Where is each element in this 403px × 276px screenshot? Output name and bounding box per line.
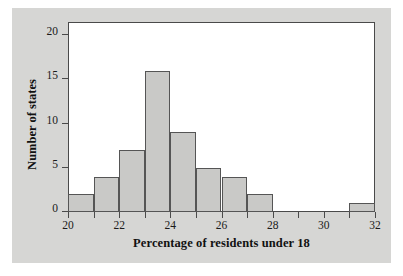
x-tick-label: 28 [261,220,285,232]
x-tick-label: 22 [107,220,131,232]
x-tick-mark [298,212,299,218]
y-tick-label: 20 [47,26,59,38]
histogram-bar [349,203,375,212]
x-tick-label: 30 [312,220,336,232]
y-tick-label: 10 [47,115,59,127]
x-tick-mark [324,212,325,218]
x-tick-mark [273,212,274,218]
x-tick-mark [222,212,223,218]
y-tick-label: 0 [52,203,58,215]
plot-area [68,22,375,212]
x-tick-label: 20 [56,220,80,232]
histogram-bar [247,194,273,212]
y-axis-title: Number of states [25,30,40,220]
y-tick-mark [62,123,68,124]
x-axis-title: Percentage of residents under 18 [68,236,375,251]
x-tick-label: 26 [210,220,234,232]
x-tick-mark [247,212,248,218]
histogram-bar [94,177,120,212]
histogram-figure: 05101520 20222426283032 Percentage of re… [0,0,403,276]
y-tick-mark [62,167,68,168]
x-tick-mark [196,212,197,218]
histogram-bar [119,150,145,212]
x-tick-mark [145,212,146,218]
histogram-bar [170,132,196,212]
y-tick-label: 15 [47,70,59,82]
x-tick-label: 24 [158,220,182,232]
x-tick-mark [119,212,120,218]
y-tick-mark [62,78,68,79]
x-tick-mark [170,212,171,218]
x-tick-mark [94,212,95,218]
x-tick-mark [349,212,350,218]
histogram-bar [196,168,222,212]
histogram-bar [68,194,94,212]
x-tick-mark [68,212,69,218]
histogram-bar [222,177,248,212]
y-tick-mark [62,34,68,35]
histogram-bar [145,71,171,212]
x-tick-mark [375,212,376,218]
x-tick-label: 32 [363,220,387,232]
y-tick-label: 5 [52,159,58,171]
